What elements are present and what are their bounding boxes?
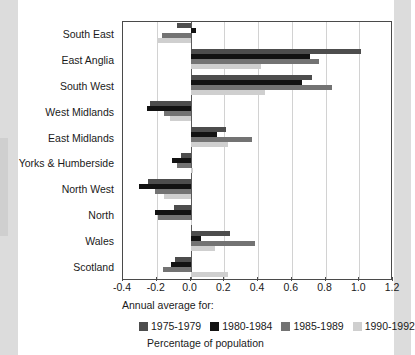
bar-group [123, 229, 391, 255]
category-label: West Midlands [45, 106, 114, 118]
bar-group [123, 74, 391, 100]
category-label: East Midlands [48, 132, 114, 144]
category-axis-labels: South EastEast AngliaSouth WestWest Midl… [0, 21, 118, 280]
x-tick-label: 0.6 [283, 281, 298, 293]
bar-group [123, 203, 391, 229]
category-label: South West [60, 80, 114, 92]
x-tick-mark [257, 277, 258, 281]
legend-item[interactable]: 1975-1979 [139, 320, 201, 332]
legend-swatch [139, 322, 148, 331]
legend-item[interactable]: 1990-1992 [353, 320, 415, 332]
x-tick-mark [392, 277, 393, 281]
legend-swatch [281, 322, 290, 331]
plot-area [122, 21, 392, 280]
legend-swatch [210, 322, 219, 331]
bar [158, 215, 191, 220]
x-tick-mark [122, 277, 123, 281]
category-label: Yorks & Humberside [19, 157, 114, 169]
x-tick-mark [358, 277, 359, 281]
bar [164, 194, 190, 199]
bar [191, 272, 228, 277]
x-tick-label: -0.2 [147, 281, 165, 293]
legend-label: 1980-1984 [222, 320, 272, 332]
legend-label: 1975-1979 [151, 320, 201, 332]
bar-group [123, 22, 391, 48]
category-label: Scotland [73, 261, 114, 273]
x-tick-label: -0.4 [113, 281, 131, 293]
category-label: North West [62, 183, 114, 195]
value-axis-ticks: -0.4-0.20.00.20.40.60.81.01.2 [122, 281, 392, 295]
legend-label: 1990-1992 [365, 320, 415, 332]
legend-item[interactable]: 1980-1984 [210, 320, 272, 332]
bar [191, 246, 215, 251]
bar [191, 168, 194, 173]
legend-swatch [353, 322, 362, 331]
x-tick-mark [223, 277, 224, 281]
bar [158, 38, 190, 43]
chart-legend: 1975-19791980-19841985-19891990-1992 [139, 320, 415, 332]
bar [177, 163, 191, 168]
x-tick-label: 1.2 [385, 281, 400, 293]
bar [191, 142, 229, 147]
category-label: Wales [85, 235, 114, 247]
category-label: East Anglia [61, 54, 114, 66]
x-tick-label: 1.0 [351, 281, 366, 293]
x-tick-mark [291, 277, 292, 281]
bar [177, 23, 191, 28]
bar-group [123, 126, 391, 152]
legend-title: Annual average for: [122, 299, 214, 311]
bar [191, 28, 196, 33]
bar [191, 220, 193, 225]
bar [191, 90, 265, 95]
category-label: South East [63, 28, 114, 40]
x-axis-title: Percentage of population [0, 337, 411, 349]
x-tick-mark [156, 277, 157, 281]
bar [163, 267, 191, 272]
x-tick-label: 0.4 [250, 281, 265, 293]
category-label: North [88, 209, 114, 221]
x-tick-label: 0.8 [317, 281, 332, 293]
x-tick-mark [325, 277, 326, 281]
bar-group [123, 48, 391, 74]
bar-group [123, 100, 391, 126]
x-tick-label: 0.2 [216, 281, 231, 293]
legend-item[interactable]: 1985-1989 [281, 320, 343, 332]
bar [191, 64, 262, 69]
bar [170, 116, 190, 121]
x-tick-mark [190, 277, 191, 281]
legend-label: 1985-1989 [293, 320, 343, 332]
bar-group [123, 152, 391, 178]
x-tick-label: 0.0 [182, 281, 197, 293]
bar-group [123, 177, 391, 203]
